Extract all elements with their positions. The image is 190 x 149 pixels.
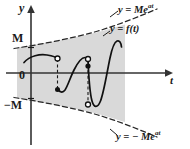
open-circle-marker-2 — [86, 57, 91, 62]
t-axis-label: t — [170, 75, 173, 86]
tick-label-negative-M: −M — [4, 99, 22, 111]
y-axis-label: y — [19, 2, 24, 14]
figure-canvas — [0, 0, 190, 149]
lower-envelope-label-text: y = − Me — [116, 131, 155, 142]
upper-envelope-label-exponent: at — [148, 2, 154, 10]
open-circle-marker-3 — [86, 102, 91, 107]
filled-dot-marker-1 — [55, 87, 60, 92]
leader-line-upper-envelope — [110, 11, 118, 17]
open-circle-marker-1 — [55, 56, 60, 61]
y-axis-arrowhead — [27, 5, 35, 13]
lower-envelope-label: y = − Meat — [116, 130, 160, 142]
function-curve-label: y = f(t) — [110, 24, 139, 35]
lower-envelope-label-exponent: at — [155, 129, 161, 137]
upper-envelope-label-text: y = Me — [118, 4, 148, 15]
upper-envelope-label: y = Meat — [118, 3, 153, 15]
origin-label: 0 — [19, 69, 25, 81]
filled-dot-marker-2 — [85, 63, 90, 68]
exponential-bound-figure: y t M 0 −M y = Meat y = f(t) y = − Meat — [0, 0, 190, 149]
tick-label-M: M — [12, 32, 23, 44]
